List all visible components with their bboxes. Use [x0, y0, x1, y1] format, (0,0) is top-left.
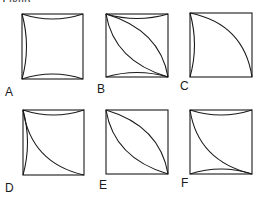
diagram-figure — [0, 0, 261, 198]
panel-f-square — [190, 110, 252, 174]
panel-c-square — [190, 13, 252, 77]
panel-a-square — [22, 14, 83, 79]
panel-e-square — [106, 110, 168, 174]
panel-b-label: B — [97, 83, 105, 95]
panel-d-square — [23, 110, 84, 175]
panel-d-label: D — [5, 182, 14, 194]
panel-a-label: A — [5, 86, 13, 98]
panel-e-label: E — [99, 179, 107, 191]
panel-f-label: F — [181, 177, 188, 189]
panel-c-label: C — [180, 80, 189, 92]
panel-b-square — [106, 14, 168, 77]
